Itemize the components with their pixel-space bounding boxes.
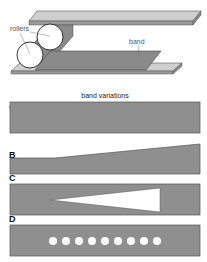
- panel-c-letter: C: [9, 173, 16, 183]
- rollers-label: rollers: [10, 25, 30, 32]
- roller-lower: [17, 42, 43, 68]
- band-variation-b: [10, 144, 200, 174]
- top-plate: [29, 11, 201, 25]
- hole: [140, 237, 148, 245]
- band-variation-a: [10, 102, 200, 133]
- hole: [62, 237, 70, 245]
- roller-upper: [37, 24, 63, 50]
- variations-title: band variations: [81, 92, 129, 99]
- hole: [114, 237, 122, 245]
- band-lower: [35, 51, 161, 70]
- panel-d-letter: D: [9, 214, 16, 224]
- roller-band-diagram: rollers band band variations A B C D: [0, 0, 207, 262]
- hole: [88, 237, 96, 245]
- hole-row: [49, 237, 161, 245]
- hole: [49, 237, 57, 245]
- band-label: band: [129, 38, 145, 45]
- hole: [101, 237, 109, 245]
- hole: [127, 237, 135, 245]
- hole: [75, 237, 83, 245]
- hole: [153, 237, 161, 245]
